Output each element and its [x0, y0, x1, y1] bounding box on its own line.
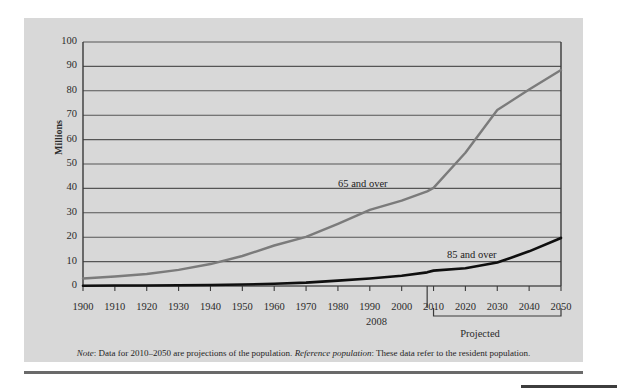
x-tick-label: 2040	[512, 301, 546, 312]
footer-rule	[521, 385, 617, 388]
x-tick-label: 1900	[66, 301, 100, 312]
x-tick-label: 1990	[353, 301, 387, 312]
x-tick-label: 1940	[193, 301, 227, 312]
note-text-2: : These data refer to the resident popul…	[372, 348, 531, 358]
y-tick-label: 100	[51, 35, 77, 46]
x-tick-label: 2000	[385, 301, 419, 312]
x-tick-label: 2050	[544, 301, 578, 312]
x-tick-label: 1920	[130, 301, 164, 312]
y-tick-label: 10	[51, 255, 77, 266]
y-tick-label: 50	[51, 157, 77, 168]
series-label-85-and-over: 85 and over	[447, 249, 497, 260]
x-tick-label: 1910	[98, 301, 132, 312]
note-emphasis: Reference population	[295, 348, 372, 358]
y-tick-label: 70	[51, 108, 77, 119]
x-tick-label: 1960	[257, 301, 291, 312]
x-tick-label: 1980	[321, 301, 355, 312]
y-tick-label: 30	[51, 206, 77, 217]
x-tick-label: 1970	[289, 301, 323, 312]
y-tick-label: 90	[51, 59, 77, 70]
series-label-65-and-over: 65 and over	[338, 178, 388, 189]
series-line-65-and-over	[83, 70, 561, 278]
x-tick-label: 2010	[417, 301, 451, 312]
x-tick-label: 2030	[480, 301, 514, 312]
note-text-1: : Data for 2010–2050 are projections of …	[94, 348, 295, 358]
x-tick-label: 2020	[448, 301, 482, 312]
x-tick-label: 1930	[162, 301, 196, 312]
figure-note: Note: Data for 2010–2050 are projections…	[24, 348, 583, 358]
note-prefix: Note	[77, 348, 94, 358]
bottom-rule	[24, 371, 583, 374]
marker-2008-label: 2008	[355, 316, 387, 327]
projected-label: Projected	[420, 328, 540, 339]
y-tick-label: 20	[51, 230, 77, 241]
figure-root: Millions 65 and over 85 and over 2008 Pr…	[0, 0, 622, 391]
x-tick-label: 1950	[225, 301, 259, 312]
y-tick-label: 60	[51, 133, 77, 144]
y-tick-label: 80	[51, 84, 77, 95]
y-tick-label: 40	[51, 181, 77, 192]
y-tick-label: 0	[51, 279, 77, 290]
